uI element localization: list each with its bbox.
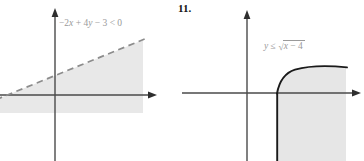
radical-expression: √x − 4 [277,40,304,53]
graph-svg-right [182,0,364,161]
equation-label-right: y≤√x − 4 [264,40,305,53]
eq-right-var-y: y [264,41,268,51]
problem-number-label: 11. [178,2,191,14]
y-axis-right [244,10,251,161]
graph-panel-left: −2x + 4y − 3 < 0 [0,0,182,161]
eq-left-term1: −2 [59,18,69,28]
shaded-region-left [0,40,143,113]
figure-container: −2x + 4y − 3 < 0 y≤√x − 4 [0,0,364,161]
radicand-var-x: x [284,41,288,51]
eq-left-var-y: y [88,18,92,28]
eq-right-relation: ≤ [270,41,275,51]
eq-left-var-x: x [69,18,73,28]
eq-left-term2: + 4 [76,18,88,28]
radicand: x − 4 [283,40,305,52]
eq-left-term3: − 3 < 0 [95,18,122,28]
graph-panel-right: y≤√x − 4 [182,0,364,161]
shaded-region-right [277,67,346,161]
radicand-rest: − 4 [290,41,302,51]
equation-label-left: −2x + 4y − 3 < 0 [59,18,122,29]
